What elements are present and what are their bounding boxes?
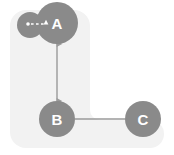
self-loop-start-dot-icon xyxy=(26,22,30,26)
graph-svg: A B C xyxy=(0,0,174,155)
diagram-canvas: A B C xyxy=(0,0,174,155)
node-b-label: B xyxy=(52,111,63,128)
node-a-label: A xyxy=(52,15,63,32)
node-c-label: C xyxy=(138,111,149,128)
